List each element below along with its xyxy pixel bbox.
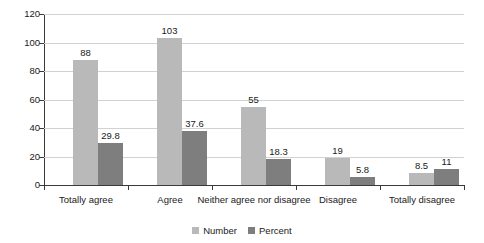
y-tick-label: 40 xyxy=(6,123,40,133)
y-tick-label: 100 xyxy=(6,38,40,48)
bar-value-label: 55 xyxy=(248,95,259,105)
bar-value-label: 5.8 xyxy=(356,165,369,175)
x-tick-mark xyxy=(380,185,381,190)
x-tick-mark xyxy=(44,185,45,190)
plot-area: 88 29.8 103 37.6 55 18.3 xyxy=(44,14,464,185)
legend-item-number: Number xyxy=(192,225,237,236)
legend-swatch-icon xyxy=(248,227,255,234)
x-axis-line xyxy=(40,185,464,186)
bar-group: 55 18.3 xyxy=(241,14,291,185)
legend-label: Percent xyxy=(259,225,292,236)
bar-percent: 18.3 xyxy=(266,159,291,185)
bar-value-label: 19 xyxy=(332,146,343,156)
bar-number: 103 xyxy=(157,38,182,185)
x-tick-mark xyxy=(464,185,465,190)
y-axis: 120 100 80 60 40 20 0 xyxy=(0,0,40,243)
bar-percent: 37.6 xyxy=(182,131,207,185)
legend-swatch-icon xyxy=(192,227,199,234)
bar-percent: 5.8 xyxy=(350,177,375,185)
bar-number: 19 xyxy=(325,158,350,185)
x-axis-label: Totally disagree xyxy=(362,194,482,206)
bar-value-label: 37.6 xyxy=(185,119,204,129)
bar-group: 103 37.6 xyxy=(157,14,207,185)
y-tick-label: 20 xyxy=(6,152,40,162)
x-tick-mark xyxy=(296,185,297,190)
x-tick-mark xyxy=(128,185,129,190)
bar-value-label: 8.5 xyxy=(415,161,428,171)
y-tick-label: 0 xyxy=(6,180,40,190)
legend-label: Number xyxy=(203,225,237,236)
y-tick-label: 60 xyxy=(6,95,40,105)
legend-item-percent: Percent xyxy=(248,225,292,236)
bar-value-label: 88 xyxy=(80,48,91,58)
y-tick-label: 80 xyxy=(6,66,40,76)
bar-percent: 29.8 xyxy=(98,143,123,186)
bar-group: 19 5.8 xyxy=(325,14,375,185)
bar-value-label: 29.8 xyxy=(101,131,120,141)
bar-group: 88 29.8 xyxy=(73,14,123,185)
bar-group: 8.5 11 xyxy=(409,14,459,185)
bar-value-label: 103 xyxy=(162,26,178,36)
y-tick-label: 120 xyxy=(6,9,40,19)
bar-number: 8.5 xyxy=(409,173,434,185)
bar-number: 88 xyxy=(73,60,98,185)
bar-value-label: 11 xyxy=(442,157,452,167)
bar-number: 55 xyxy=(241,107,266,185)
bar-value-label: 18.3 xyxy=(269,147,288,157)
chart-legend: Number Percent xyxy=(0,225,484,236)
bar-percent: 11 xyxy=(434,169,459,185)
x-tick-mark xyxy=(212,185,213,190)
bar-chart: 120 100 80 60 40 20 0 88 29.8 xyxy=(0,0,484,243)
